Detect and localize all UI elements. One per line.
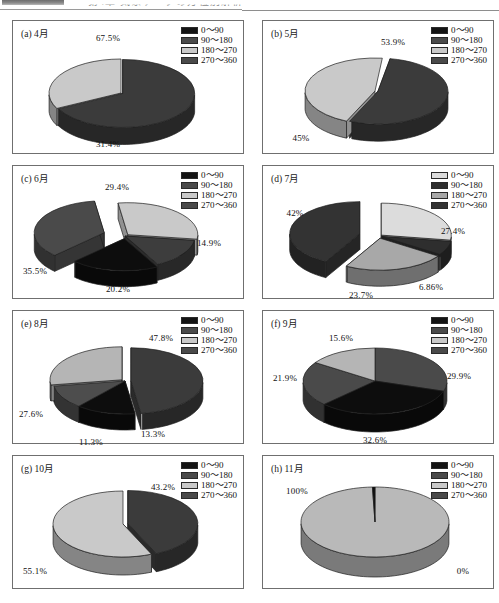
legend-swatch-icon <box>181 482 198 489</box>
pie-panel-c: (c) 6月29.4%14.9%20.2%35.5%0〜9090〜180180〜… <box>12 165 244 299</box>
legend-item[interactable]: 0〜90 <box>431 460 487 470</box>
legend-item[interactable]: 180〜270 <box>181 335 237 345</box>
legend-item[interactable]: 270〜360 <box>181 55 237 65</box>
legend-e: 0〜9090〜180180〜270270〜360 <box>181 315 237 355</box>
legend-item[interactable]: 0〜90 <box>431 170 487 180</box>
legend-swatch-icon <box>181 472 198 479</box>
legend-label: 0〜90 <box>201 26 224 35</box>
legend-item[interactable]: 90〜180 <box>431 470 487 480</box>
legend-label: 180〜270 <box>201 46 237 55</box>
pie-value-label: 6.86% <box>419 282 443 292</box>
pie-value-label: 100% <box>286 486 308 496</box>
legend-label: 90〜180 <box>451 326 483 335</box>
pie-value-label: 11.3% <box>79 437 103 447</box>
legend-swatch-icon <box>431 327 448 334</box>
pie-value-label: 47.8% <box>149 333 173 343</box>
legend-label: 270〜360 <box>201 201 237 210</box>
legend-label: 90〜180 <box>451 181 483 190</box>
legend-swatch-icon <box>431 47 448 54</box>
legend-swatch-icon <box>181 347 198 354</box>
legend-label: 0〜90 <box>451 316 474 325</box>
legend-label: 0〜90 <box>451 171 474 180</box>
legend-item[interactable]: 90〜180 <box>431 35 487 45</box>
legend-swatch-icon <box>181 57 198 64</box>
legend-item[interactable]: 270〜360 <box>431 200 487 210</box>
legend-item[interactable]: 90〜180 <box>181 35 237 45</box>
legend-label: 90〜180 <box>201 36 233 45</box>
legend-item[interactable]: 180〜270 <box>431 335 487 345</box>
legend-label: 0〜90 <box>451 26 474 35</box>
legend-item[interactable]: 0〜90 <box>181 170 237 180</box>
legend-item[interactable]: 270〜360 <box>181 200 237 210</box>
pie-slice-180-270[interactable] <box>50 347 122 385</box>
legend-label: 180〜270 <box>451 336 487 345</box>
legend-label: 180〜270 <box>451 191 487 200</box>
legend-item[interactable]: 270〜360 <box>431 345 487 355</box>
legend-item[interactable]: 270〜360 <box>431 490 487 500</box>
legend-item[interactable]: 180〜270 <box>431 480 487 490</box>
pie-value-label: 14.9% <box>197 238 221 248</box>
legend-item[interactable]: 0〜90 <box>431 315 487 325</box>
legend-item[interactable]: 90〜180 <box>431 180 487 190</box>
header-bar-block <box>2 0 64 5</box>
legend-item[interactable]: 0〜90 <box>181 460 237 470</box>
legend-a: 0〜9090〜180180〜270270〜360 <box>181 25 237 65</box>
legend-item[interactable]: 90〜180 <box>431 325 487 335</box>
legend-item[interactable]: 0〜90 <box>431 25 487 35</box>
legend-label: 270〜360 <box>201 56 237 65</box>
legend-label: 180〜270 <box>201 191 237 200</box>
legend-swatch-icon <box>431 37 448 44</box>
legend-item[interactable]: 180〜270 <box>181 45 237 55</box>
legend-item[interactable]: 270〜360 <box>181 490 237 500</box>
legend-label: 0〜90 <box>451 461 474 470</box>
pie-value-label: 43.2% <box>151 482 175 492</box>
legend-label: 270〜360 <box>451 491 487 500</box>
legend-swatch-icon <box>431 482 448 489</box>
pie-panel-h: (h) 11月100%0%0〜9090〜180180〜270270〜360 <box>262 455 494 589</box>
pie-value-label: 42% <box>286 208 303 218</box>
legend-f: 0〜9090〜180180〜270270〜360 <box>431 315 487 355</box>
pie-value-label: 27.4% <box>441 226 465 236</box>
legend-swatch-icon <box>181 37 198 44</box>
legend-item[interactable]: 180〜270 <box>181 190 237 200</box>
legend-swatch-icon <box>181 337 198 344</box>
legend-label: 270〜360 <box>451 346 487 355</box>
pie-panel-b: (b) 5月53.9%45%0〜9090〜180180〜270270〜360 <box>262 20 494 154</box>
legend-item[interactable]: 270〜360 <box>181 345 237 355</box>
legend-swatch-icon <box>181 202 198 209</box>
legend-swatch-icon <box>181 462 198 469</box>
legend-label: 0〜90 <box>201 171 224 180</box>
legend-swatch-icon <box>431 27 448 34</box>
pie-value-label: 13.3% <box>141 429 165 439</box>
legend-item[interactable]: 180〜270 <box>181 480 237 490</box>
legend-label: 180〜270 <box>201 481 237 490</box>
pie-panel-g: (g) 10月43.2%55.1%0〜9090〜180180〜270270〜36… <box>12 455 244 589</box>
legend-label: 90〜180 <box>201 471 233 480</box>
pie-value-label: 21.9% <box>273 373 297 383</box>
pie-value-label: 45% <box>292 133 309 143</box>
legend-item[interactable]: 90〜180 <box>181 180 237 190</box>
legend-item[interactable]: 0〜90 <box>181 25 237 35</box>
legend-label: 90〜180 <box>201 181 233 190</box>
legend-swatch-icon <box>431 462 448 469</box>
legend-label: 270〜360 <box>451 56 487 65</box>
pie-value-label: 32.6% <box>363 435 387 445</box>
legend-item[interactable]: 90〜180 <box>181 325 237 335</box>
legend-swatch-icon <box>181 327 198 334</box>
legend-swatch-icon <box>181 317 198 324</box>
pie-panel-a: (a) 4月67.5%31.4%0〜9090〜180180〜270270〜360 <box>12 20 244 154</box>
legend-item[interactable]: 270〜360 <box>431 55 487 65</box>
legend-label: 90〜180 <box>451 36 483 45</box>
legend-item[interactable]: 90〜180 <box>181 470 237 480</box>
pie-value-label: 20.2% <box>106 284 130 294</box>
legend-item[interactable]: 180〜270 <box>431 190 487 200</box>
pie-value-label: 29.9% <box>447 371 471 381</box>
legend-swatch-icon <box>431 172 448 179</box>
header-rule-left <box>0 9 242 10</box>
legend-item[interactable]: 0〜90 <box>181 315 237 325</box>
legend-swatch-icon <box>431 57 448 64</box>
legend-swatch-icon <box>431 337 448 344</box>
pie-value-label: 55.1% <box>23 566 47 576</box>
legend-swatch-icon <box>431 492 448 499</box>
legend-item[interactable]: 180〜270 <box>431 45 487 55</box>
